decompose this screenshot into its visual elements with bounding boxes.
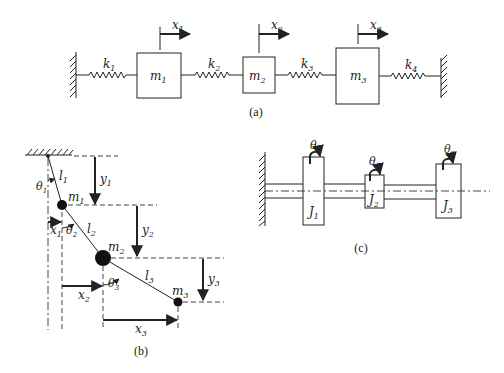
x2-label-b: x2 — [78, 288, 90, 304]
bob-m3 — [174, 298, 183, 307]
theta3-c-label: θ3 — [444, 143, 456, 158]
l3-label: l3 — [145, 269, 154, 285]
l2-label: l2 — [87, 222, 96, 238]
ceiling — [25, 149, 73, 155]
y2-label: y2 — [141, 223, 154, 239]
m1-bob-label: m1 — [68, 190, 84, 206]
x3-label: x3 — [370, 18, 382, 34]
x1-label: x1 — [172, 18, 184, 34]
panel-a: k1 m1 x1 k2 m2 x2 k3 m3 x3 k4 — [70, 18, 447, 119]
panel-c: J1 J2 J3 θ1 θ2 θ3 (c) — [259, 139, 490, 255]
theta2-label: θ2 — [66, 224, 78, 239]
caption-b: (b) — [134, 344, 148, 358]
k4-label: k4 — [405, 58, 417, 74]
figure: k1 m1 x1 k2 m2 x2 k3 m3 x3 k4 — [0, 0, 504, 373]
m2-bob-label: m2 — [108, 240, 124, 256]
theta2-c-label: θ2 — [369, 155, 381, 170]
spring-k3 — [275, 72, 336, 78]
x2-label: x2 — [271, 18, 283, 34]
y3-label: y3 — [207, 272, 220, 288]
theta1-c-label: θ1 — [310, 139, 321, 154]
l1-label: l1 — [59, 169, 68, 185]
x1-label-b: x1 — [50, 223, 62, 239]
k3-label: k3 — [301, 57, 313, 73]
pivot — [46, 154, 50, 158]
caption-a: (a) — [249, 105, 262, 119]
panel-b: θ1 l1 m1 θ2 l2 m2 θ3 l3 m3 y1 y2 y3 x1 x… — [25, 149, 224, 358]
k2-label: k2 — [208, 57, 220, 73]
y1-label: y1 — [99, 172, 112, 188]
left-wall — [70, 52, 76, 98]
right-wall — [441, 55, 447, 98]
spring-k1 — [76, 72, 137, 78]
x3-label-b: x3 — [135, 322, 147, 338]
m3-bob-label: m3 — [172, 284, 188, 300]
theta1-arc — [48, 179, 55, 180]
bob-m1 — [57, 200, 67, 210]
spring-k2 — [181, 72, 243, 78]
spring-k4 — [379, 73, 441, 79]
k1-label: k1 — [103, 57, 115, 73]
shaft-wall — [259, 152, 265, 226]
theta1-label: θ1 — [36, 180, 47, 195]
caption-c: (c) — [354, 241, 367, 255]
